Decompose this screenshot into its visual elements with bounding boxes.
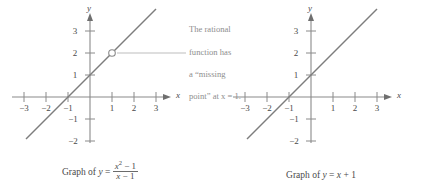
left-caption: Graph of y = x2 − 1 x − 1 xyxy=(0,163,200,183)
x-axis-arrowhead xyxy=(163,94,171,100)
missing-point-open-circle xyxy=(109,50,116,57)
left-x-ticklabel-2: 2 xyxy=(124,104,144,113)
left-caption-equals: = xyxy=(105,167,110,177)
left-y-ticklabel-1: 1 xyxy=(68,71,82,80)
right-y-ticklabel-3: 3 xyxy=(289,27,303,36)
numerator-rest: − 1 xyxy=(124,161,136,171)
right-y-ticklabel-1: 1 xyxy=(289,71,303,80)
numerator-exponent: 2 xyxy=(119,159,122,166)
right-y-ticklabel-2: 2 xyxy=(289,49,303,58)
right-y-ticklabel--1: −1 xyxy=(285,115,303,124)
left-caption-var: y xyxy=(98,167,102,177)
left-y-ticklabel-3: 3 xyxy=(68,27,82,36)
left-x-ticklabel-3: 3 xyxy=(146,104,166,113)
right-plot-area: x y −3 −2 −1 1 2 3 3 2 1 −1 −2 xyxy=(221,8,421,153)
right-plot-svg xyxy=(221,8,421,153)
x-axis-arrowhead xyxy=(384,94,392,100)
y-axis-arrowhead xyxy=(308,13,314,21)
right-y-axis-label: y xyxy=(308,4,312,13)
right-caption-prefix: Graph of xyxy=(286,170,320,180)
right-x-ticklabel-2: 2 xyxy=(345,104,365,113)
left-x-ticklabel--1: −1 xyxy=(58,104,78,113)
left-x-ticklabel--2: −2 xyxy=(36,104,56,113)
right-x-ticklabel--3: −3 xyxy=(235,104,255,113)
left-caption-fraction: x2 − 1 x − 1 xyxy=(113,162,138,182)
right-graph-panel: x y −3 −2 −1 1 2 3 3 2 1 −1 −2 Graph of … xyxy=(221,0,421,196)
left-y-ticklabel-2: 2 xyxy=(68,49,82,58)
right-x-ticklabel--2: −2 xyxy=(257,104,277,113)
left-plot-area: x y −3 −2 −1 1 2 3 3 2 1 −1 −2 xyxy=(0,8,200,153)
right-x-ticklabel-1: 1 xyxy=(323,104,343,113)
right-caption-expr-rest: + 1 xyxy=(343,170,355,180)
figure-two-graphs: x y −3 −2 −1 1 2 3 3 2 1 −1 −2 Graph of … xyxy=(0,0,421,196)
left-y-ticklabel--2: −2 xyxy=(64,137,82,146)
fraction-denominator: x − 1 xyxy=(113,172,138,181)
left-graph-panel: x y −3 −2 −1 1 2 3 3 2 1 −1 −2 Graph of … xyxy=(0,0,200,196)
right-caption: Graph of y = x + 1 xyxy=(221,170,421,180)
denominator-rest: − 1 xyxy=(123,171,135,181)
denominator-var: x xyxy=(116,171,120,181)
right-y-ticklabel--2: −2 xyxy=(285,137,303,146)
y-axis-arrowhead xyxy=(87,13,93,21)
left-y-axis-label: y xyxy=(87,4,91,13)
right-x-axis-label: x xyxy=(397,91,401,100)
left-x-ticklabel--3: −3 xyxy=(14,104,34,113)
left-caption-prefix: Graph of xyxy=(62,167,96,177)
right-x-ticklabel--1: −1 xyxy=(279,104,299,113)
left-y-ticklabel--1: −1 xyxy=(64,115,82,124)
left-plot-svg xyxy=(0,8,200,153)
right-caption-expr-var: x xyxy=(337,170,341,180)
left-x-axis-label: x xyxy=(176,91,180,100)
right-caption-var: y xyxy=(323,170,327,180)
right-x-ticklabel-3: 3 xyxy=(367,104,387,113)
left-x-ticklabel-1: 1 xyxy=(102,104,122,113)
right-caption-equals: = xyxy=(329,170,334,180)
